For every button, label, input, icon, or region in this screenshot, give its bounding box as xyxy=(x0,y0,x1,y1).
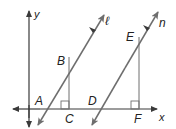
point-label-c: C xyxy=(65,112,74,126)
line-n-down xyxy=(92,68,125,125)
right-angle-mark-f xyxy=(131,101,139,109)
x-axis-label: x xyxy=(158,111,165,123)
point-label-d: D xyxy=(88,94,97,108)
y-axis-label: y xyxy=(33,8,41,20)
parallel-mark-l xyxy=(89,27,96,33)
point-label-b: B xyxy=(57,54,65,68)
line-l-label: ℓ xyxy=(105,14,110,28)
line-l xyxy=(70,15,104,72)
line-n-label: n xyxy=(159,16,166,30)
point-label-a: A xyxy=(34,94,43,108)
geometry-diagram: y x ℓ n A B C D E F xyxy=(0,0,176,129)
point-label-f: F xyxy=(134,112,142,126)
point-label-e: E xyxy=(126,30,135,44)
right-angle-mark-c xyxy=(61,101,69,109)
